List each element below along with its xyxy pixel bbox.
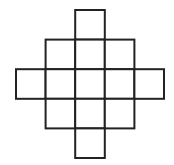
grid-square (46, 69, 76, 99)
grid-square (75, 69, 105, 99)
grid-square (105, 40, 135, 70)
grid-square (105, 69, 135, 99)
grid-square (134, 69, 164, 99)
grid-square (46, 40, 76, 70)
square-grid-diagram (0, 0, 174, 165)
grid-square (75, 99, 105, 129)
grid-square (16, 69, 46, 99)
grid-square (75, 40, 105, 70)
grid-square (75, 10, 105, 40)
grid-square (105, 99, 135, 129)
grid-square (75, 128, 105, 158)
grid-square (46, 99, 76, 129)
